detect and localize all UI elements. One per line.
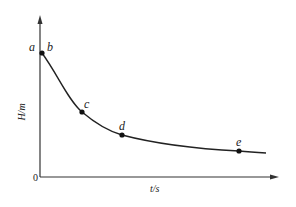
chart-svg: a b c d e H/m 0 t/s [0, 0, 296, 207]
y-axis-label-text: H/m [16, 103, 27, 121]
label-d: d [119, 119, 126, 133]
x-axis-arrow-icon [270, 175, 279, 180]
y-axis-arrow-icon [38, 15, 43, 24]
label-a: a [29, 40, 35, 54]
label-c: c [84, 97, 90, 111]
data-point-e [236, 148, 241, 153]
y-axis-label: H/m [16, 103, 27, 121]
label-e: e [236, 135, 242, 149]
data-point-d [119, 132, 124, 137]
chart: a b c d e H/m 0 t/s [0, 0, 296, 207]
label-b: b [47, 40, 53, 54]
data-curve [42, 53, 266, 153]
data-point-a-b [39, 50, 44, 55]
x-axis-label: t/s [150, 183, 160, 194]
origin-label: 0 [33, 172, 38, 183]
